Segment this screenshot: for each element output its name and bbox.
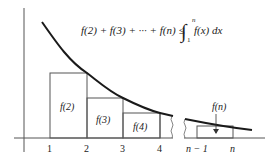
curve-right [185,119,252,130]
label-f2: f(2) [60,101,75,113]
integral-lower-limit: 1 [187,36,191,44]
label-f3: f(3) [96,114,111,126]
tick-label-3: 3 [120,143,125,154]
tick-label-1: 1 [47,143,52,154]
break-mark-left [171,116,173,138]
integral-test-diagram: f(2) + f(3) + ··· + f(n) ≤ ∫ n 1 f(x) dx… [0,0,274,161]
label-f4: f(4) [133,121,148,133]
tick-label-4: 4 [157,143,162,154]
break-mark-right [184,119,186,138]
fn-pointer-arrowhead [213,129,219,134]
formula-lhs: f(2) + f(3) + ··· + f(n) ≤ [81,24,184,37]
tick-label-n-minus-1: n − 1 [186,143,208,154]
tick-label-n: n [230,143,235,154]
tick-label-2: 2 [84,143,89,154]
integrand: f(x) dx [194,24,223,37]
label-fn: f(n) [212,101,227,113]
integral-upper-limit: n [192,16,196,24]
